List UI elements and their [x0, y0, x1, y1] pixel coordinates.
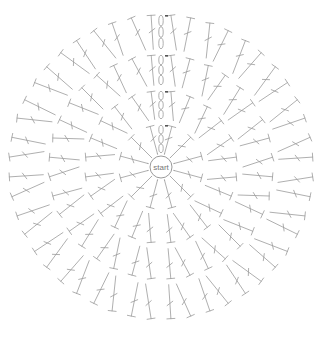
start-label: start: [153, 163, 169, 172]
crochet-circle-diagram: start: [0, 0, 322, 337]
starting-chain-column: [159, 15, 168, 153]
